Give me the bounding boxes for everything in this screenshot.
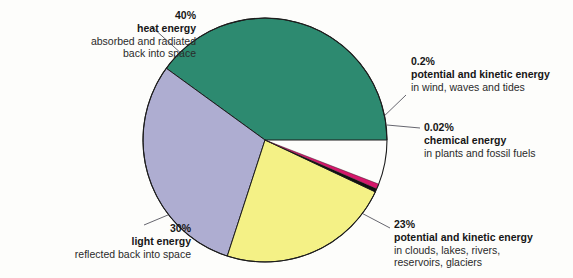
callout-water-line1: in clouds, lakes, rivers,: [394, 244, 533, 257]
callout-water-percent: 23%: [394, 218, 533, 231]
callout-heat-percent: 40%: [8, 9, 196, 22]
pie-chart-figure: 40% heat energy absorbed and radiated ba…: [0, 0, 573, 278]
callout-chemical-percent: 0.02%: [424, 121, 535, 134]
callout-wind-percent: 0.2%: [411, 55, 550, 68]
callout-heat-line1: absorbed and radiated: [8, 35, 196, 48]
callout-wind-line1: in wind, waves and tides: [411, 81, 550, 94]
leader-line-chemical: [387, 125, 420, 128]
callout-light-line1: reflected back into space: [6, 248, 191, 261]
callout-wind-headline: potential and kinetic energy: [411, 68, 550, 81]
callout-water-energy: 23% potential and kinetic energy in clou…: [394, 218, 533, 269]
callout-light-headline: light energy: [6, 235, 191, 248]
callout-heat-line2: back into space: [8, 47, 196, 60]
callout-heat-headline: heat energy: [8, 22, 196, 35]
callout-wind-energy: 0.2% potential and kinetic energy in win…: [411, 55, 550, 93]
callout-heat-energy: 40% heat energy absorbed and radiated ba…: [8, 9, 196, 60]
callout-light-energy: 30% light energy reflected back into spa…: [6, 222, 191, 260]
callout-light-percent: 30%: [6, 222, 191, 235]
callout-chemical-energy: 0.02% chemical energy in plants and foss…: [424, 121, 535, 159]
callout-water-headline: potential and kinetic energy: [394, 231, 533, 244]
callout-chemical-headline: chemical energy: [424, 134, 535, 147]
callout-water-line2: reservoirs, glaciers: [394, 256, 533, 269]
callout-chemical-line1: in plants and fossil fuels: [424, 147, 535, 160]
